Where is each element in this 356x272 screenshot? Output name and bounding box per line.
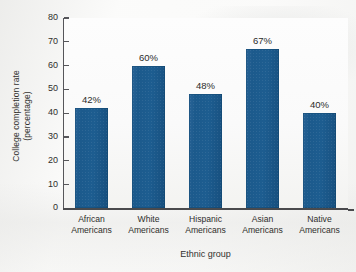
y-axis-tick-label: 40: [36, 108, 58, 117]
y-axis-tick-label: 60: [36, 61, 58, 70]
bar-value-label: 67%: [241, 36, 285, 46]
y-axis-tick-label: 20: [36, 156, 58, 165]
bar[interactable]: [246, 49, 279, 208]
bar-value-label: 48%: [184, 81, 228, 91]
bar-chart-figure: College completion rate (percentage) 010…: [0, 0, 356, 272]
y-axis-tick: [64, 65, 69, 66]
y-axis-tick-label: 50: [36, 84, 58, 93]
x-axis-title: Ethnic group: [63, 249, 348, 260]
bar[interactable]: [189, 94, 222, 208]
x-axis-category-label-line-2: Americans: [286, 225, 354, 236]
y-axis-tick: [64, 184, 69, 185]
y-axis-tick: [64, 17, 69, 18]
y-axis-tick-label: 30: [36, 132, 58, 141]
y-axis-tick: [64, 113, 69, 114]
x-axis-category-labels: AfricanAmericansWhiteAmericansHispanicAm…: [63, 214, 348, 244]
y-axis-tick: [64, 41, 69, 42]
y-axis-title-line-1: College completion rate: [11, 70, 22, 162]
x-axis-category-label-line-1: Native: [286, 214, 354, 225]
plot-area: 42%60%48%67%40%: [63, 18, 348, 210]
y-axis-tick-label: 70: [36, 37, 58, 46]
bar-value-label: 42%: [70, 95, 114, 105]
y-axis-tick-label: 0: [36, 203, 58, 212]
y-axis-tick-labels: 01020304050607080: [33, 18, 58, 210]
y-axis-tick: [64, 89, 69, 90]
y-axis-tick: [64, 136, 69, 137]
x-axis-category-label: NativeAmericans: [286, 214, 354, 236]
bar[interactable]: [75, 108, 108, 208]
y-axis-line: [63, 18, 64, 210]
bar[interactable]: [132, 66, 165, 209]
bar-value-label: 40%: [298, 100, 342, 110]
y-axis-tick: [64, 160, 69, 161]
y-axis-tick-label: 10: [36, 180, 58, 189]
x-axis-line-extension: [348, 209, 354, 211]
bar-value-label: 60%: [127, 53, 171, 63]
bar[interactable]: [303, 113, 336, 208]
y-axis-tick-label: 80: [36, 13, 58, 22]
y-axis-title-line-2: (percentage): [21, 70, 32, 162]
x-axis-line: [63, 208, 348, 210]
